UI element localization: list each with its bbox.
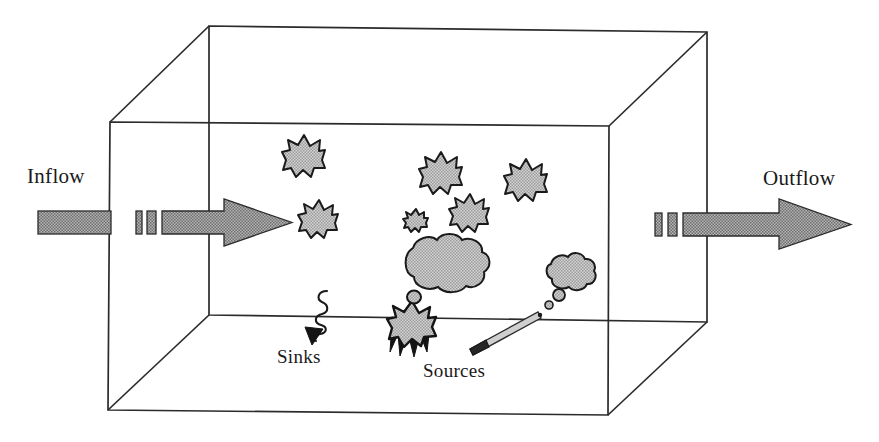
box-edge-top-left [110, 26, 209, 122]
inflow-dash-1 [136, 211, 142, 234]
box-edge-top-right [609, 32, 707, 126]
outflow-dash-2 [668, 213, 677, 236]
box-edge-bottom-right [608, 322, 707, 415]
inflow-arrow [38, 199, 292, 246]
outflow-label: Outflow [763, 166, 835, 191]
box-model-diagram: Inflow Outflow Sinks Sources [0, 0, 879, 442]
burst-3 [419, 152, 462, 194]
cloud-small [547, 253, 596, 290]
cloud-large [406, 234, 490, 292]
inflow-arrow-body [162, 199, 292, 246]
burst-4 [504, 159, 547, 201]
cloud-group [406, 234, 596, 292]
sinks-label: Sinks [277, 346, 321, 368]
inflow-dash-2 [147, 211, 156, 234]
burst-5 [449, 194, 489, 232]
cigarette-smoke-puff-1 [545, 301, 553, 309]
box-front-face [108, 122, 609, 415]
burst-6 [403, 209, 428, 232]
burst-2 [298, 200, 338, 238]
outflow-arrow [655, 199, 851, 249]
cigarette-filter [470, 340, 489, 355]
burst-1 [282, 135, 325, 177]
cigarette-smoke-puff-2 [553, 289, 565, 301]
sink-arrowhead [305, 327, 323, 345]
outflow-arrow-body [683, 199, 851, 249]
sink-squiggle-arrow [305, 291, 327, 345]
explosion-icon [387, 291, 436, 358]
explosion-spark [407, 291, 421, 304]
burst-group [282, 135, 547, 238]
cigarette-icon [470, 289, 565, 355]
sources-label: Sources [423, 360, 485, 382]
inflow-label: Inflow [27, 164, 85, 189]
box-edge-bottom-left [108, 315, 209, 410]
cigarette-ember [538, 313, 542, 317]
outflow-dash-1 [655, 213, 662, 236]
inflow-outer-shaft [38, 211, 111, 234]
